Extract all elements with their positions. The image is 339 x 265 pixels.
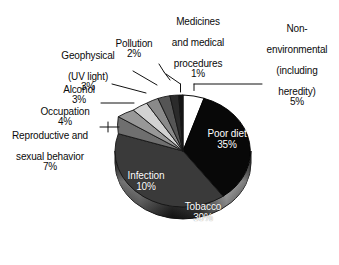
label-reproductive-line1: Reproductive and xyxy=(12,130,88,141)
label-non-environmental-line3: (including xyxy=(276,65,317,76)
label-non-environmental-line4: heredity) xyxy=(278,86,316,97)
label-non-environmental-line2: environmental xyxy=(267,44,328,55)
label-poor-diet-pct: 35% xyxy=(196,139,258,150)
label-alcohol-name: Alcohol xyxy=(63,84,95,95)
label-tobacco-pct: 30% xyxy=(175,212,231,223)
label-reproductive-line2: sexual behavior xyxy=(16,151,84,162)
label-medicines-line3: procedures xyxy=(174,58,223,69)
label-poor-diet-name: Poor diet xyxy=(207,128,246,139)
label-tobacco: Tobacco 30% xyxy=(175,190,231,234)
label-poor-diet: Poor diet 35% xyxy=(196,117,258,161)
label-non-environmental-pct: 5% xyxy=(258,97,336,108)
label-medicines: Medicines and medical procedures 1% xyxy=(156,6,240,90)
pie-chart-figure: Medicines and medical procedures 1% Poll… xyxy=(0,0,339,265)
label-occupation-name: Occupation xyxy=(40,106,89,117)
label-medicines-line1: Medicines xyxy=(176,16,220,27)
label-non-environmental-line1: Non- xyxy=(286,23,307,34)
label-reproductive-pct: 7% xyxy=(2,162,98,173)
label-reproductive: Reproductive and sexual behavior 7% xyxy=(2,120,98,183)
leader-geophysical xyxy=(133,71,157,85)
label-medicines-line2: and medical xyxy=(172,37,224,48)
label-infection: Infection 10% xyxy=(119,159,173,203)
label-infection-name: Infection xyxy=(128,170,165,181)
label-geophysical-line1: Geophysical xyxy=(61,50,114,61)
label-non-environmental: Non- environmental (including heredity) … xyxy=(258,13,336,118)
label-infection-pct: 10% xyxy=(119,181,173,192)
label-medicines-pct: 1% xyxy=(156,69,240,80)
label-tobacco-name: Tobacco xyxy=(185,201,222,212)
